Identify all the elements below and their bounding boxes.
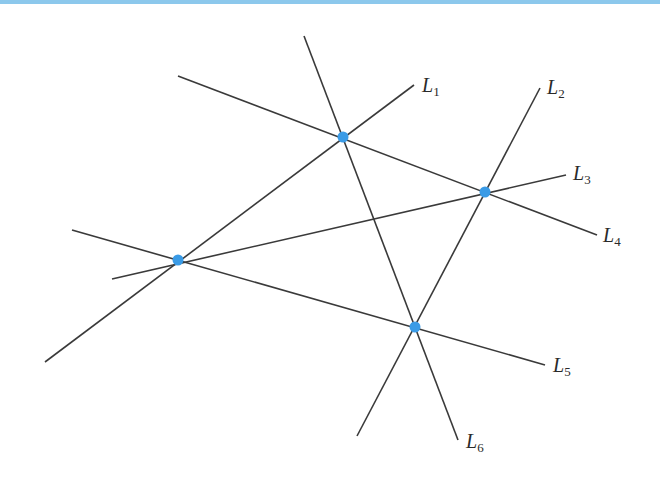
intersection-L1-L3-L5-point <box>173 255 184 266</box>
line-l1 <box>45 85 414 362</box>
label-l2: L2 <box>546 76 565 101</box>
line-l5 <box>72 230 545 365</box>
intersection-L2-L3-L4-point <box>480 187 491 198</box>
line-arrangement-figure: L1L2L3L4L5L6 <box>0 0 660 480</box>
diagram-canvas: L1L2L3L4L5L6 <box>0 0 660 480</box>
intersection-L2-L5-L6-point <box>410 322 421 333</box>
label-l3: L3 <box>572 162 591 187</box>
label-l1: L1 <box>421 74 440 99</box>
label-l5: L5 <box>552 354 571 379</box>
intersection-L1-L4-L6-point <box>338 132 349 143</box>
line-l2 <box>357 88 540 436</box>
label-l4: L4 <box>602 224 621 249</box>
label-l6: L6 <box>465 430 484 455</box>
